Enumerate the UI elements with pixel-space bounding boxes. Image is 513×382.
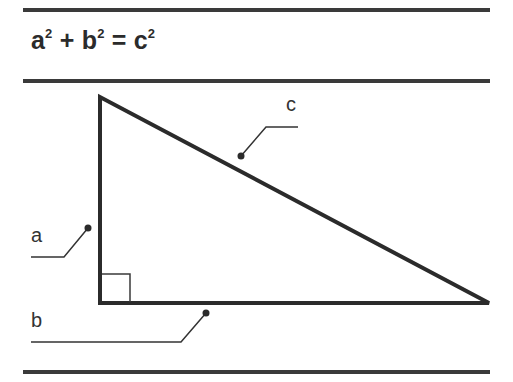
- label-b: b: [31, 309, 42, 331]
- right-triangle-diagram: c a b: [0, 0, 513, 382]
- leader-c-dot: [238, 153, 245, 160]
- bottom-rule: [23, 370, 490, 374]
- leader-c: [238, 127, 299, 160]
- leader-a-dot: [85, 225, 92, 232]
- right-triangle: [100, 97, 489, 303]
- label-c: c: [286, 93, 296, 115]
- leader-b-dot: [203, 310, 210, 317]
- label-a: a: [31, 224, 43, 246]
- right-angle-marker: [102, 274, 130, 302]
- leader-b: [31, 310, 210, 343]
